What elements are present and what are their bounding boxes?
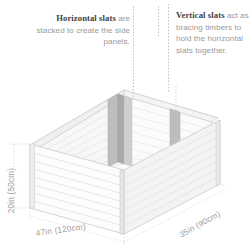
- annotation-horizontal-slats: Horizontal slats are stacked to create t…: [26, 13, 130, 48]
- garden-bed-svg: [0, 86, 251, 248]
- annotation-horizontal-slats-lead: Horizontal slats: [56, 13, 116, 23]
- annotation-divider-line: [168, 4, 169, 92]
- leader-line-vertical-slats-a: [158, 6, 159, 36]
- annotation-vertical-slats: Vertical slats act as bracing timbers to…: [176, 10, 250, 56]
- dimension-label-height: 20in (50cm): [7, 160, 16, 222]
- corner-post-right: [216, 120, 220, 186]
- garden-bed-illustration: [0, 86, 251, 248]
- corner-post-left: [30, 144, 35, 208]
- vertical-slat-back-right: [124, 96, 132, 166]
- corner-post-front: [120, 170, 124, 234]
- vertical-slat-back-left: [108, 94, 124, 167]
- raised-bed-diagram-figure: Horizontal slats are stacked to create t…: [0, 0, 251, 248]
- annotation-vertical-slats-lead: Vertical slats: [176, 10, 225, 20]
